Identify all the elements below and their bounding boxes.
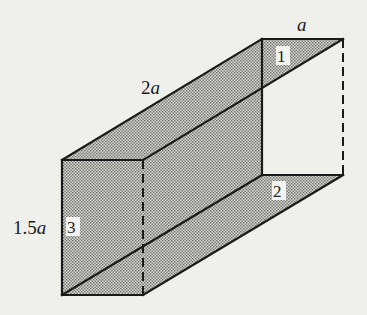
face-1-label: 1 [277, 47, 286, 66]
face-2-label: 2 [273, 182, 282, 201]
height-label: 1.5a [13, 217, 46, 238]
length-label: 2a [141, 77, 160, 98]
face-3-label: 3 [67, 218, 76, 237]
width-label: a [297, 14, 307, 35]
duct-diagram: a 2a 1.5a 1 2 3 [0, 0, 367, 315]
